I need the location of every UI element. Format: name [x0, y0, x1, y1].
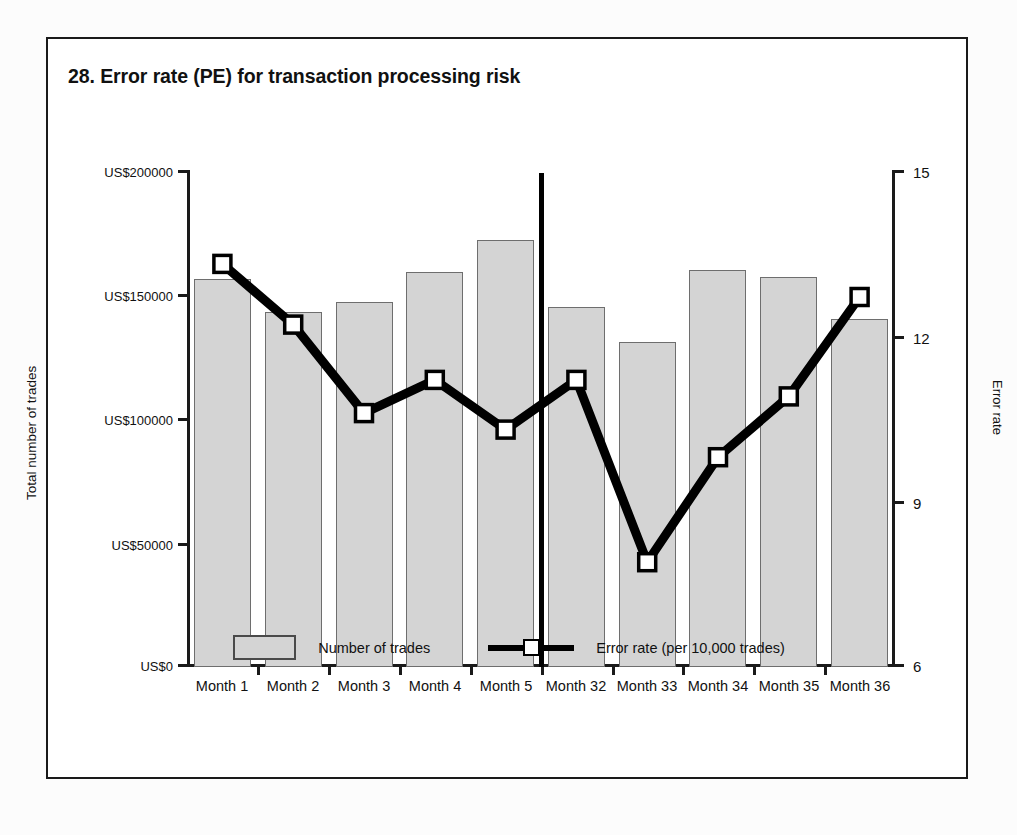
bar-swatch-icon: [233, 635, 296, 660]
left-axis-label-50000: US$50000: [65, 538, 173, 553]
page-title: 28. Error rate (PE) for transaction proc…: [68, 65, 520, 88]
x-tick-8: [753, 667, 756, 675]
left-axis-title: Total number of trades: [24, 366, 39, 500]
x-tick-5: [541, 667, 544, 675]
chart-card: 28. Error rate (PE) for transaction proc…: [46, 37, 968, 779]
x-label-month-34: Month 34: [688, 678, 748, 694]
left-axis-label-200000: US$200000: [65, 165, 173, 180]
x-label-month-35: Month 35: [759, 678, 819, 694]
right-axis-label-9: 9: [913, 495, 921, 512]
line-marker-icon: [488, 638, 574, 658]
x-label-month-2: Month 2: [267, 678, 319, 694]
legend-label-number-of-trades: Number of trades: [318, 640, 430, 656]
x-label-month-5: Month 5: [480, 678, 532, 694]
x-tick-2: [328, 667, 331, 675]
x-label-month-1: Month 1: [196, 678, 248, 694]
legend-label-error-rate: Error rate (per 10,000 trades): [596, 640, 785, 656]
marker-month-36: [851, 289, 868, 306]
legend-item-error-rate: Error rate (per 10,000 trades): [488, 638, 785, 658]
right-axis-title: Error rate: [990, 380, 1005, 435]
x-tick-9: [824, 667, 827, 675]
chart-legend: Number of trades Error rate (per 10,000 …: [48, 635, 970, 660]
marker-month-33: [639, 554, 656, 571]
x-label-month-3: Month 3: [338, 678, 390, 694]
x-label-month-36: Month 36: [830, 678, 890, 694]
x-tick-7: [682, 667, 685, 675]
left-axis-label-100000: US$100000: [65, 413, 173, 428]
legend-item-number-of-trades: Number of trades: [233, 635, 430, 660]
left-axis-label-0: US$0: [65, 659, 173, 674]
marker-month-2: [285, 316, 302, 333]
right-axis-label-12: 12: [913, 330, 930, 347]
marker-month-1: [214, 255, 231, 272]
marker-month-34: [710, 449, 727, 466]
x-tick-4: [470, 667, 473, 675]
x-tick-3: [399, 667, 402, 675]
marker-month-35: [780, 388, 797, 405]
left-axis-label-150000: US$150000: [65, 289, 173, 304]
error-rate-polyline: [222, 264, 859, 562]
page-background: 28. Error rate (PE) for transaction proc…: [0, 0, 1017, 835]
x-tick-6: [612, 667, 615, 675]
x-label-month-32: Month 32: [546, 678, 606, 694]
error-rate-line-series: [187, 170, 895, 667]
square-marker-icon: [523, 639, 540, 656]
marker-month-3: [356, 405, 373, 422]
x-tick-1: [257, 667, 260, 675]
x-label-month-4: Month 4: [409, 678, 461, 694]
plot-area: US$200000 US$150000 US$100000 US$50000 U…: [187, 170, 895, 667]
x-label-month-33: Month 33: [617, 678, 677, 694]
marker-month-5: [497, 421, 514, 438]
marker-month-32: [568, 371, 585, 388]
right-axis-label-6: 6: [913, 658, 921, 675]
marker-month-4: [426, 371, 443, 388]
right-axis-label-15: 15: [913, 164, 930, 181]
